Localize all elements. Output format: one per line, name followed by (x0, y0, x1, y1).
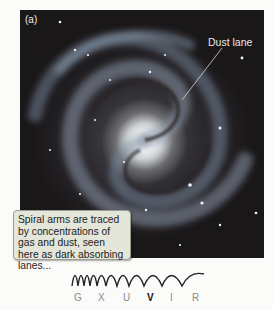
band-r: R (192, 292, 199, 303)
band-x: X (98, 292, 105, 303)
caption-box: Spiral arms are traced by concentrations… (13, 210, 131, 260)
panel-label: (a) (25, 14, 37, 25)
band-u: U (123, 292, 130, 303)
band-v: V (147, 292, 154, 303)
dust-lane-label: Dust lane (208, 36, 252, 48)
wavelength-wave-icon (70, 270, 210, 290)
spectrum-bands: G X U V I R (74, 292, 209, 306)
band-g: G (74, 292, 82, 303)
band-i: I (170, 292, 173, 303)
